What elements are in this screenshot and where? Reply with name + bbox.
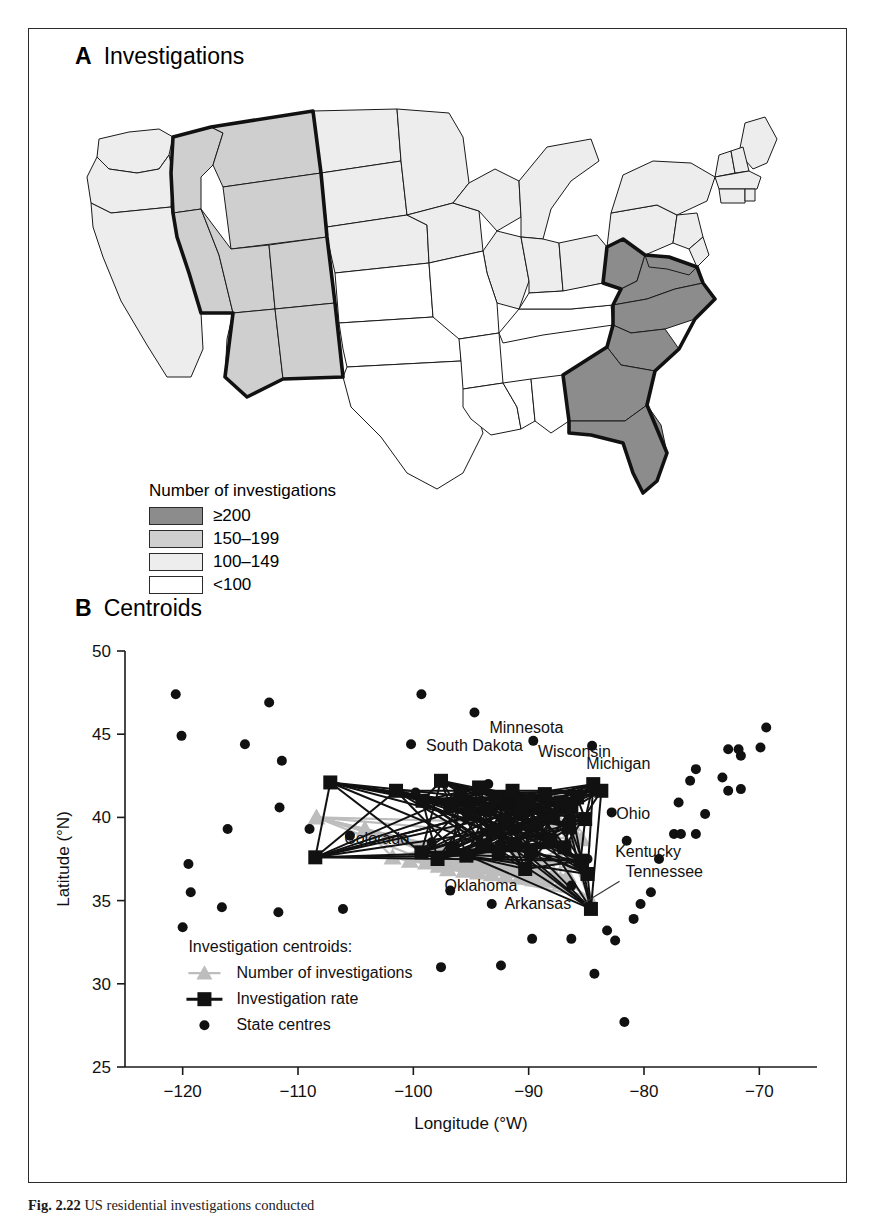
x-tick-label: −110 xyxy=(279,1082,316,1101)
marker-circle xyxy=(629,914,639,924)
marker-square xyxy=(544,834,558,848)
state-label: Michigan xyxy=(586,755,650,772)
marker-square xyxy=(578,812,592,826)
panel-b-title: Centroids xyxy=(104,595,202,621)
map-legend: Number of investigations ≥200 150–199 10… xyxy=(149,481,336,597)
marker-square xyxy=(508,837,522,851)
marker-circle xyxy=(171,689,181,699)
marker-circle xyxy=(183,859,193,869)
marker-circle xyxy=(217,902,227,912)
x-tick-label: −70 xyxy=(745,1082,774,1101)
marker-circle xyxy=(223,824,233,834)
map-legend-title: Number of investigations xyxy=(149,481,336,501)
legend-marker-square xyxy=(197,992,211,1006)
marker-circle xyxy=(528,736,538,746)
marker-circle xyxy=(177,731,187,741)
marker-square xyxy=(580,867,594,881)
legend-swatch-150-199 xyxy=(149,530,203,548)
marker-circle xyxy=(589,969,599,979)
figure-caption: Fig. 2.22 US residential investigations … xyxy=(28,1196,847,1228)
y-axis-title: Latitude (°N) xyxy=(54,811,73,907)
caption-text: US residential investigations conducted xyxy=(84,1197,314,1213)
state-arkansas xyxy=(459,333,503,389)
legend-swatch-200plus xyxy=(149,507,203,525)
marker-circle xyxy=(602,926,612,936)
y-tick-label: 45 xyxy=(92,725,111,744)
state-wyoming xyxy=(223,173,327,249)
legend-swatch-under100 xyxy=(149,576,203,594)
marker-square xyxy=(488,790,502,804)
marker-circle xyxy=(469,708,479,718)
marker-circle xyxy=(566,814,576,824)
marker-circle xyxy=(273,907,283,917)
marker-circle xyxy=(610,936,620,946)
state-label: Ohio xyxy=(616,805,650,822)
marker-circle xyxy=(527,934,537,944)
marker-square xyxy=(518,862,532,876)
marker-circle xyxy=(674,797,684,807)
state-label: Oklahoma xyxy=(444,877,517,894)
marker-circle xyxy=(240,739,250,749)
marker-circle xyxy=(416,689,426,699)
marker-square xyxy=(487,824,501,838)
marker-square xyxy=(522,794,536,808)
marker-circle xyxy=(685,776,695,786)
state-label: Kentucky xyxy=(615,843,681,860)
marker-circle xyxy=(305,824,315,834)
x-axis-title: Longitude (°W) xyxy=(414,1114,528,1133)
y-tick-label: 25 xyxy=(92,1058,111,1077)
panel-a-title: Investigations xyxy=(104,43,245,69)
caption-label: Fig. 2.22 xyxy=(28,1197,81,1213)
legend-label-under100: <100 xyxy=(213,575,251,595)
state-colorado xyxy=(269,237,335,309)
marker-square xyxy=(431,852,445,866)
legend-item-100-149: 100–149 xyxy=(149,551,336,572)
marker-square xyxy=(434,774,448,788)
legend-label-200plus: ≥200 xyxy=(213,506,251,526)
marker-square xyxy=(524,844,538,858)
marker-circle xyxy=(619,1017,629,1027)
plot-legend-label: Investigation rate xyxy=(236,990,358,1007)
legend-item-under100: <100 xyxy=(149,574,336,595)
y-tick-label: 50 xyxy=(92,642,111,661)
legend-marker-circle xyxy=(199,1020,209,1030)
marker-circle xyxy=(536,812,546,822)
state-connecticut xyxy=(719,189,745,203)
state-label: Minnesota xyxy=(489,719,563,736)
marker-circle xyxy=(582,854,592,864)
marker-circle xyxy=(676,829,686,839)
marker-circle xyxy=(264,698,274,708)
centroid-scatter-plot: 253035404550−120−110−100−90−80−70Longitu… xyxy=(39,629,839,1174)
marker-circle xyxy=(496,960,506,970)
state-tennessee xyxy=(499,305,613,343)
marker-circle xyxy=(607,807,617,817)
marker-circle xyxy=(700,809,710,819)
state-kansas xyxy=(335,263,433,323)
marker-circle xyxy=(566,934,576,944)
plot-legend-group: Investigation centroids:Number of invest… xyxy=(186,938,412,1033)
marker-circle xyxy=(636,899,646,909)
plot-legend-label: Number of investigations xyxy=(236,964,412,981)
legend-label-150-199: 150–199 xyxy=(213,529,279,549)
x-tick-label: −120 xyxy=(164,1082,202,1101)
y-tick-label: 40 xyxy=(92,808,111,827)
panel-a-header: AInvestigations xyxy=(75,43,244,70)
marker-square xyxy=(546,809,560,823)
state-label: Tennessee xyxy=(626,863,703,880)
panel-b-header: BCentroids xyxy=(75,595,202,622)
marker-square xyxy=(476,839,490,853)
legend-item-150-199: 150–199 xyxy=(149,528,336,549)
marker-circle xyxy=(723,786,733,796)
state-label: Colorado xyxy=(344,830,409,847)
marker-circle xyxy=(734,744,744,754)
marker-circle xyxy=(406,739,416,749)
panel-a-letter: A xyxy=(75,43,92,69)
marker-circle xyxy=(186,887,196,897)
plot-legend-label: State centres xyxy=(236,1016,330,1033)
figure-frame: AInvestigations xyxy=(28,28,847,1183)
marker-square xyxy=(459,849,473,863)
marker-square xyxy=(446,842,460,856)
marker-square xyxy=(506,784,520,798)
state-rhode-island xyxy=(745,189,755,201)
legend-item-200plus: ≥200 xyxy=(149,505,336,526)
